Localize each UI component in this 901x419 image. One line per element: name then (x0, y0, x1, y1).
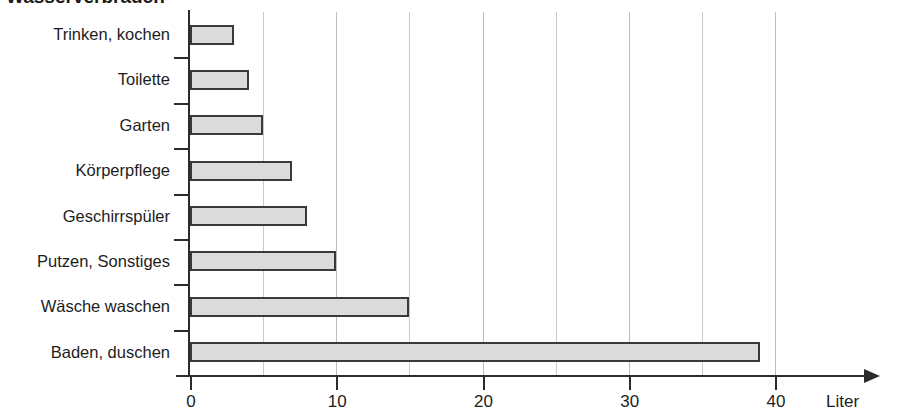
x-tick-label: 40 (746, 390, 806, 414)
bar-row: Toilette (0, 57, 901, 102)
bar (190, 206, 307, 226)
bar (190, 297, 409, 317)
bar-row: Wäsche waschen (0, 284, 901, 329)
x-tick-mark-0 (190, 377, 192, 390)
category-label: Toilette (0, 57, 170, 102)
x-axis-ticks: Liter 010203040 (0, 377, 901, 419)
y-axis-tick (174, 194, 189, 196)
category-label: Wäsche waschen (0, 284, 170, 329)
category-label: Geschirrspüler (0, 194, 170, 239)
y-axis-tick (174, 239, 189, 241)
x-tick-mark-20 (483, 377, 485, 390)
bar (190, 25, 234, 45)
x-tick-label: 10 (307, 390, 367, 414)
bar (190, 115, 263, 135)
bar (190, 251, 336, 271)
category-label: Baden, duschen (0, 330, 170, 375)
chart-title-text: Wasserverbrauch (6, 0, 165, 7)
category-label: Putzen, Sonstiges (0, 239, 170, 284)
x-axis-unit-label: Liter (826, 390, 859, 414)
bar-row: Putzen, Sonstiges (0, 239, 901, 284)
water-usage-bar-chart: Wasserverbrauch Trinken, kochenToiletteG… (0, 0, 901, 419)
bar (190, 342, 760, 362)
x-tick-label: 30 (600, 390, 660, 414)
y-axis-tick (174, 330, 189, 332)
category-label: Trinken, kochen (0, 12, 170, 57)
x-tick-mark-30 (629, 377, 631, 390)
x-tick-label: 20 (454, 390, 514, 414)
bar-row: Baden, duschen (0, 330, 901, 375)
category-label: Körperpflege (0, 148, 170, 193)
bar-row: Garten (0, 103, 901, 148)
bar-rows: Trinken, kochenToiletteGartenKörperpfleg… (0, 12, 901, 375)
chart-title-cutoff: Wasserverbrauch (0, 0, 901, 9)
bar (190, 70, 249, 90)
y-axis-tick (174, 57, 189, 59)
x-tick-label: 0 (161, 390, 221, 414)
y-axis-tick (174, 148, 189, 150)
x-tick-mark-40 (775, 377, 777, 390)
y-axis-tick (174, 103, 189, 105)
bar-row: Trinken, kochen (0, 12, 901, 57)
bar (190, 161, 292, 181)
category-label: Garten (0, 103, 170, 148)
y-axis-tick (174, 284, 189, 286)
bar-row: Geschirrspüler (0, 194, 901, 239)
bar-row: Körperpflege (0, 148, 901, 193)
x-tick-mark-10 (336, 377, 338, 390)
